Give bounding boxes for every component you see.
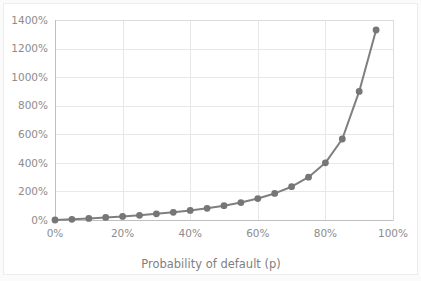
- y-tick-label: 1400%: [11, 14, 48, 26]
- data-point-marker[interactable]: [204, 205, 211, 212]
- x-tick-label: 40%: [179, 227, 202, 239]
- y-tick-label: 200%: [18, 185, 48, 197]
- data-point-marker[interactable]: [102, 214, 109, 221]
- data-point-marker[interactable]: [187, 207, 194, 214]
- data-point-marker[interactable]: [136, 212, 143, 219]
- y-tick-label: 400%: [18, 157, 48, 169]
- data-point-marker[interactable]: [52, 217, 59, 224]
- x-tick-label: 60%: [246, 227, 269, 239]
- data-point-marker[interactable]: [271, 190, 278, 197]
- x-tick-label: 100%: [378, 227, 408, 239]
- data-point-marker[interactable]: [238, 199, 245, 206]
- data-point-marker[interactable]: [170, 209, 177, 216]
- data-point-marker[interactable]: [153, 210, 160, 217]
- y-tick-label: 600%: [18, 128, 48, 140]
- data-point-marker[interactable]: [254, 195, 261, 202]
- gridlines: [55, 20, 394, 221]
- x-tick-label: 20%: [111, 227, 134, 239]
- y-tick-label: 1200%: [11, 42, 48, 54]
- x-tick-label: 0%: [47, 227, 64, 239]
- data-point-marker[interactable]: [221, 202, 228, 209]
- data-point-marker[interactable]: [373, 27, 380, 34]
- data-series[interactable]: [52, 27, 380, 224]
- x-axis-tick-labels: 0%20%40%60%80%100%: [47, 227, 408, 239]
- data-point-marker[interactable]: [69, 216, 76, 223]
- chart-frame: 0%200%400%600%800%1000%1200%1400% 0%20%4…: [3, 3, 418, 275]
- data-point-marker[interactable]: [339, 136, 346, 143]
- plot-area-rect: [56, 21, 394, 221]
- line-chart[interactable]: 0%200%400%600%800%1000%1200%1400% 0%20%4…: [4, 4, 419, 276]
- plot-area-border: [55, 20, 394, 221]
- y-tick-label: 800%: [18, 99, 48, 111]
- data-point-marker[interactable]: [305, 174, 312, 181]
- data-point-marker[interactable]: [356, 88, 363, 95]
- y-tick-label: 0%: [31, 214, 48, 226]
- x-tick-label: 80%: [314, 227, 337, 239]
- data-point-marker[interactable]: [85, 215, 92, 222]
- data-point-marker[interactable]: [119, 213, 126, 220]
- y-axis-tick-labels: 0%200%400%600%800%1000%1200%1400%: [11, 14, 48, 226]
- chart-screenshot: 0%200%400%600%800%1000%1200%1400% 0%20%4…: [0, 0, 421, 281]
- x-axis-title: Probability of default (p): [141, 257, 281, 271]
- data-point-marker[interactable]: [322, 159, 329, 166]
- y-tick-label: 1000%: [11, 71, 48, 83]
- data-point-marker[interactable]: [288, 183, 295, 190]
